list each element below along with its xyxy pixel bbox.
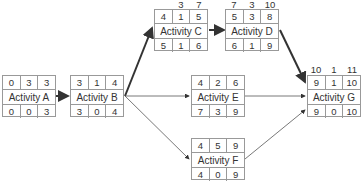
es: 4	[192, 139, 209, 152]
ef: 6	[226, 76, 244, 89]
duration: 3	[243, 10, 261, 23]
node-activity-d: 538 Activity D 619	[225, 9, 279, 51]
ef: 4	[105, 76, 123, 89]
annot: 10	[307, 65, 325, 74]
node-label: Activity B	[71, 89, 123, 105]
annot: 3	[243, 0, 261, 9]
es: 9	[308, 76, 325, 89]
edge-b-c	[125, 28, 152, 96]
annot	[154, 0, 172, 9]
node-d-annotation: 7310	[225, 0, 279, 9]
slack: 1	[243, 39, 261, 52]
annot: 11	[343, 65, 361, 74]
edge-f-g	[245, 110, 305, 159]
slack: 1	[172, 39, 190, 52]
lf: 4	[105, 105, 123, 118]
lf: 9	[226, 168, 244, 181]
lf: 9	[226, 105, 244, 118]
ls: 7	[192, 105, 209, 118]
node-label: Activity F	[192, 152, 244, 168]
slack: 0	[325, 105, 343, 118]
node-label: Activity D	[226, 23, 278, 39]
node-label: Activity A	[3, 89, 55, 105]
node-g-annotation: 10111	[307, 65, 361, 74]
node-activity-g: 9110 Activity G 9010	[307, 75, 361, 117]
annot: 1	[325, 65, 343, 74]
annot: 7	[190, 0, 208, 9]
es: 0	[3, 76, 20, 89]
node-label: Activity C	[155, 23, 207, 39]
ef: 5	[189, 10, 207, 23]
duration: 2	[209, 76, 227, 89]
lf: 10	[342, 105, 360, 118]
duration: 5	[209, 139, 227, 152]
node-activity-b: 314 Activity B 304	[70, 75, 124, 117]
node-activity-e: 426 Activity E 739	[191, 75, 245, 117]
ef: 3	[37, 76, 55, 89]
es: 4	[155, 10, 172, 23]
slack: 0	[20, 105, 38, 118]
es: 3	[71, 76, 88, 89]
duration: 3	[20, 76, 38, 89]
node-c-annotation: 37	[154, 0, 208, 9]
annot: 10	[261, 0, 279, 9]
node-activity-f: 459 Activity F 409	[191, 138, 245, 180]
ls: 9	[308, 105, 325, 118]
duration: 1	[88, 76, 106, 89]
lf: 3	[37, 105, 55, 118]
node-activity-a: 033 Activity A 003	[2, 75, 56, 117]
slack: 0	[88, 105, 106, 118]
annot: 3	[172, 0, 190, 9]
node-activity-c: 415 Activity C 516	[154, 9, 208, 51]
node-label: Activity E	[192, 89, 244, 105]
lf: 9	[260, 39, 278, 52]
ls: 6	[226, 39, 243, 52]
duration: 1	[172, 10, 190, 23]
ef: 9	[226, 139, 244, 152]
slack: 0	[209, 168, 227, 181]
duration: 1	[325, 76, 343, 89]
ef: 8	[260, 10, 278, 23]
edge-b-f	[125, 96, 189, 159]
slack: 3	[209, 105, 227, 118]
lf: 6	[189, 39, 207, 52]
es: 5	[226, 10, 243, 23]
es: 4	[192, 76, 209, 89]
ef: 10	[342, 76, 360, 89]
ls: 0	[3, 105, 20, 118]
ls: 4	[192, 168, 209, 181]
edge-d-g	[280, 30, 305, 82]
ls: 5	[155, 39, 172, 52]
ls: 3	[71, 105, 88, 118]
node-label: Activity G	[308, 89, 360, 105]
annot: 7	[225, 0, 243, 9]
